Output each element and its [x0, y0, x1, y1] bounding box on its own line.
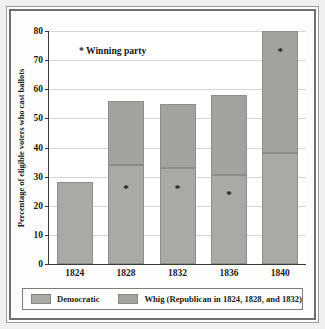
y-tick-label: 50: [34, 113, 44, 123]
y-tick-mark: [45, 264, 49, 265]
bar-group[interactable]: 1840: [262, 31, 298, 264]
y-tick-mark: [45, 235, 49, 236]
y-axis-title: Percentage of eligible voters who cast b…: [14, 31, 28, 265]
bar-group[interactable]: 1832: [160, 31, 196, 264]
y-tick-mark: [45, 177, 49, 178]
gridline: [49, 264, 306, 265]
winning-party-star: *: [226, 189, 232, 200]
legend-swatch-whig: [118, 294, 138, 304]
plot-area: * Winning party 010203040506070801824182…: [48, 31, 306, 265]
y-tick-label: 60: [34, 84, 44, 94]
bar-group[interactable]: 1836: [211, 31, 247, 264]
y-tick-label: 10: [34, 230, 44, 240]
winning-party-star: *: [175, 183, 181, 194]
y-tick-label: 40: [34, 143, 44, 153]
x-tick-label: 1832: [160, 268, 196, 278]
y-tick-label: 30: [34, 172, 44, 182]
legend-item-democratic: Democratic: [31, 294, 99, 304]
x-tick-label: 1840: [262, 268, 298, 278]
y-tick-label: 0: [38, 259, 43, 269]
y-tick-mark: [45, 148, 49, 149]
bar-segment-whig[interactable]: [211, 95, 247, 175]
x-tick-label: 1836: [211, 268, 247, 278]
bar-segment-democratic[interactable]: [57, 182, 93, 264]
y-tick-mark: [45, 206, 49, 207]
bar-group[interactable]: 1824: [57, 31, 93, 264]
y-tick-mark: [45, 89, 49, 90]
legend-label-democratic: Democratic: [57, 294, 99, 304]
bar-segment-whig[interactable]: [160, 104, 196, 168]
y-tick-mark: [45, 31, 49, 32]
legend-swatch-democratic: [31, 294, 51, 304]
bar-segment-democratic[interactable]: [108, 165, 144, 264]
x-tick-label: 1824: [57, 268, 93, 278]
bar-segment-whig[interactable]: [108, 101, 144, 165]
y-tick-mark: [45, 60, 49, 61]
y-tick-mark: [45, 118, 49, 119]
x-tick-label: 1828: [108, 268, 144, 278]
legend-label-whig: Whig (Republican in 1824, 1828, and 1832…: [144, 294, 302, 304]
y-tick-label: 20: [34, 201, 44, 211]
y-tick-label: 70: [34, 55, 44, 65]
winning-party-star: *: [123, 183, 129, 194]
bar-segment-democratic[interactable]: [262, 153, 298, 264]
chart-screenshot: Percentage of eligible voters who cast b…: [0, 0, 325, 329]
y-tick-label: 80: [34, 26, 44, 36]
legend-item-whig: Whig (Republican in 1824, 1828, and 1832…: [118, 294, 302, 304]
chart-legend: Democratic Whig (Republican in 1824, 182…: [22, 288, 303, 310]
winning-party-star: *: [278, 46, 284, 57]
bar-group[interactable]: 1828: [108, 31, 144, 264]
